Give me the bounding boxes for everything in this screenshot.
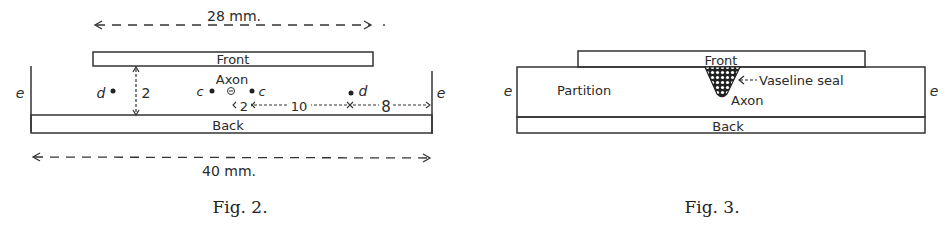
label-front: Front [217,52,250,67]
electrode-d-left [111,89,116,94]
label-d-left: d [97,85,106,101]
label-c-right: c [258,84,265,99]
label-axon: Axon [216,72,248,87]
label-spacing-de: 8 [381,98,391,116]
label-spacing-cd: 10 [291,99,308,114]
label-axon: Axon [731,93,763,108]
label-partition: Partition [557,83,611,98]
electrode-c-left [210,89,215,94]
figure-2-caption: Fig. 2. [212,197,267,217]
dimension-spacing [233,102,430,108]
label-e-left: e [16,85,25,101]
figure-2: 28 mm. Front Back Axon e e d 2 c [16,8,446,217]
label-e-right: e [930,83,939,99]
diagram-canvas: 28 mm. Front Back Axon e e d 2 c [0,0,951,232]
label-28mm: 28 mm. [207,8,261,24]
dimension-gap [133,67,139,115]
label-back: Back [212,118,244,133]
label-spacing-c: 2 [240,99,248,114]
electrode-d-right [349,91,354,96]
electrode-c-right [250,89,255,94]
label-back: Back [712,119,744,134]
stray-dot [383,24,385,26]
label-gap: 2 [142,85,151,101]
vaseline-pointer [739,76,757,84]
label-e-right: e [437,85,446,101]
label-front: Front [705,53,738,68]
dimension-40mm [33,153,430,162]
label-40mm: 40 mm. [202,163,256,179]
figure-3: Front Vaseline seal Axon Partition Back … [504,51,939,217]
label-d-right: d [359,83,368,99]
label-vaseline: Vaseline seal [759,73,844,88]
label-e-left: e [504,83,513,99]
axon-cross-section [228,88,235,95]
label-c-left: c [196,84,203,99]
figure-3-caption: Fig. 3. [684,197,739,217]
